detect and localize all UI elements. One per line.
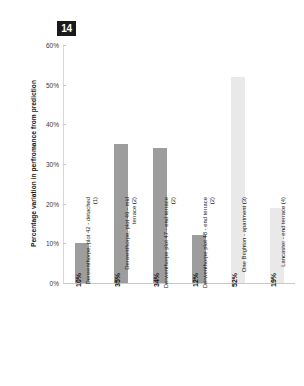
y-axis-tick-mark: [63, 243, 66, 244]
bar-value-label: 19%: [270, 273, 277, 287]
bar-value-label: 34%: [153, 273, 160, 287]
x-axis-category-label: Derwenthorpe plot 47 - end terrace (2): [163, 197, 178, 289]
y-axis-tick-label: 60%: [46, 42, 59, 49]
y-axis-title: Percentage variation in perfromance from…: [30, 39, 37, 289]
bar-value-label: 10%: [75, 273, 82, 287]
x-axis-category-label: Lancaster - end terrace (4): [280, 197, 287, 289]
x-axis-category-label: Derwenthorpe, plot 42 - detached (1): [85, 197, 100, 289]
y-axis-tick-label: 40%: [46, 121, 59, 128]
bar-chart-figure: 14 Percentage variation in perfromance f…: [0, 0, 304, 386]
y-axis-tick-label: 0%: [50, 280, 59, 287]
y-axis-tick-mark: [63, 124, 66, 125]
y-axis-tick-label: 30%: [46, 161, 59, 168]
figure-number-badge: 14: [57, 21, 76, 36]
y-axis-tick-label: 10%: [46, 240, 59, 247]
y-axis-tick-label: 50%: [46, 81, 59, 88]
x-axis-category-label: One Brighton - apartment (3): [241, 197, 248, 289]
x-axis-category-label: Derwenthorpe plot 48 - end terrace (2): [202, 197, 217, 289]
x-axis-category-label: Derwenthorpe, plot 46 - mid terrace (2): [124, 197, 139, 289]
bar-value-label: 52%: [231, 273, 238, 287]
y-axis-tick-mark: [63, 85, 66, 86]
bar-value-label: 35%: [114, 273, 121, 287]
y-axis-tick-mark: [63, 45, 66, 46]
y-axis-tick-label: 20%: [46, 200, 59, 207]
y-axis-tick-mark: [63, 283, 66, 284]
y-axis-tick-mark: [63, 164, 66, 165]
bar-value-label: 12%: [192, 273, 199, 287]
y-axis-tick-mark: [63, 204, 66, 205]
